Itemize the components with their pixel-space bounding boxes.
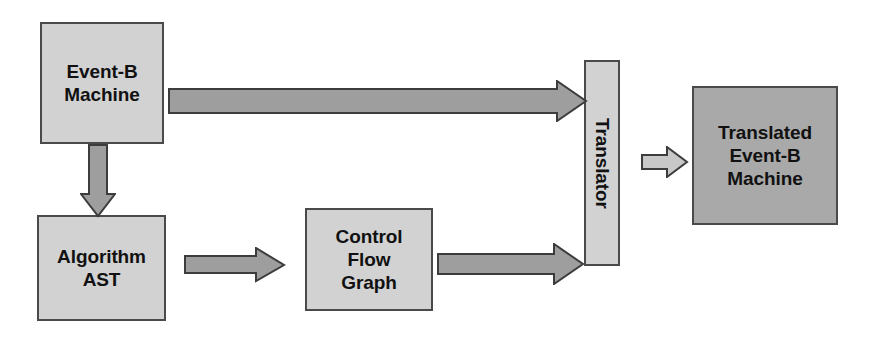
diagram-canvas: Event-B Machine Algorithm AST Control Fl… [0, 0, 877, 345]
node-event-b-machine[interactable]: Event-B Machine [40, 22, 164, 144]
node-translator[interactable]: Translator [584, 60, 620, 266]
arrow-cfg-to-translator-icon [437, 243, 585, 285]
arrow-translator-to-output-icon [641, 146, 689, 178]
arrow-ast-to-cfg-icon [184, 247, 286, 283]
node-control-flow-graph[interactable]: Control Flow Graph [305, 208, 433, 311]
node-algorithm-ast[interactable]: Algorithm AST [37, 215, 166, 321]
arrow-machine-to-translator-icon [168, 80, 588, 122]
node-translated-event-b-machine[interactable]: Translated Event-B Machine [692, 86, 838, 225]
arrow-machine-to-ast-icon [80, 144, 116, 218]
